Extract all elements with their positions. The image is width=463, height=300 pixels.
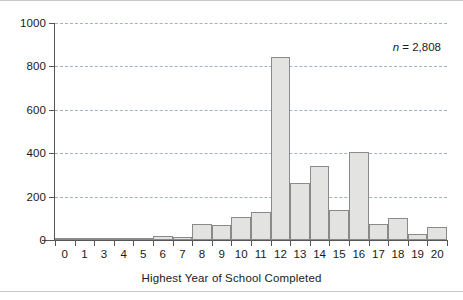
x-tick-label-5: 5 bbox=[140, 248, 146, 260]
sample-size-annotation: n = 2,808 bbox=[393, 41, 441, 53]
x-tick-mark bbox=[231, 240, 232, 246]
x-tick-label-1: 1 bbox=[81, 248, 87, 260]
x-tick-mark bbox=[55, 240, 56, 246]
x-tick-mark bbox=[310, 240, 311, 246]
x-tick-mark bbox=[212, 240, 213, 246]
x-tick-label-8: 8 bbox=[199, 248, 205, 260]
x-tick-label-20: 20 bbox=[431, 248, 444, 260]
bar-series bbox=[55, 23, 447, 240]
x-tick-label-11: 11 bbox=[255, 248, 267, 260]
x-tick-mark bbox=[349, 240, 350, 246]
y-tick-label-200: 200 bbox=[27, 191, 47, 203]
x-tick-label-14: 14 bbox=[313, 248, 326, 260]
bar bbox=[388, 218, 408, 240]
x-tick-label-3: 3 bbox=[101, 248, 107, 260]
x-tick-label-17: 17 bbox=[372, 248, 385, 260]
x-tick-mark bbox=[251, 240, 252, 246]
x-axis-ticks: 0134567891011121314151617181920 bbox=[55, 240, 447, 270]
histogram-figure: 02004006008001000 0134567891011121314151… bbox=[0, 0, 463, 300]
x-axis-title: Highest Year of School Completed bbox=[0, 272, 463, 284]
x-tick-mark bbox=[290, 240, 291, 246]
y-tick-label-800: 800 bbox=[27, 60, 47, 72]
bar bbox=[427, 227, 447, 240]
x-tick-label-0: 0 bbox=[62, 248, 68, 260]
x-tick-mark bbox=[153, 240, 154, 246]
x-tick-mark bbox=[75, 240, 76, 246]
bar bbox=[271, 57, 291, 240]
bar bbox=[349, 152, 369, 240]
x-tick-mark bbox=[388, 240, 389, 246]
y-tick-label-0: 0 bbox=[40, 234, 47, 246]
bar bbox=[310, 166, 330, 240]
bar bbox=[329, 210, 349, 240]
x-tick-label-7: 7 bbox=[179, 248, 185, 260]
y-tick-label-1000: 1000 bbox=[20, 17, 46, 29]
bar bbox=[212, 225, 232, 240]
x-tick-mark bbox=[271, 240, 272, 246]
bar bbox=[251, 212, 271, 240]
x-tick-mark bbox=[133, 240, 134, 246]
bar bbox=[369, 224, 389, 240]
bottom-divider bbox=[0, 291, 463, 292]
x-tick-mark bbox=[192, 240, 193, 246]
x-tick-mark bbox=[447, 240, 448, 246]
x-tick-label-15: 15 bbox=[333, 248, 346, 260]
x-tick-label-19: 19 bbox=[411, 248, 424, 260]
y-tick-label-600: 600 bbox=[27, 104, 47, 116]
plot-area: 02004006008001000 bbox=[55, 23, 447, 240]
bar bbox=[231, 217, 251, 240]
x-tick-mark bbox=[329, 240, 330, 246]
x-tick-mark bbox=[173, 240, 174, 246]
x-tick-label-6: 6 bbox=[160, 248, 166, 260]
x-tick-mark bbox=[94, 240, 95, 246]
y-tick-label-400: 400 bbox=[27, 147, 47, 159]
bar bbox=[290, 183, 310, 240]
sample-size-value: = 2,808 bbox=[399, 41, 441, 53]
x-tick-label-10: 10 bbox=[235, 248, 248, 260]
x-tick-label-18: 18 bbox=[392, 248, 405, 260]
x-tick-label-13: 13 bbox=[294, 248, 307, 260]
x-tick-label-9: 9 bbox=[218, 248, 224, 260]
x-tick-mark bbox=[427, 240, 428, 246]
x-tick-mark bbox=[114, 240, 115, 246]
x-tick-label-4: 4 bbox=[120, 248, 126, 260]
x-tick-mark bbox=[408, 240, 409, 246]
x-tick-label-12: 12 bbox=[274, 248, 287, 260]
bar bbox=[192, 224, 212, 240]
x-tick-label-16: 16 bbox=[352, 248, 365, 260]
x-tick-mark bbox=[369, 240, 370, 246]
